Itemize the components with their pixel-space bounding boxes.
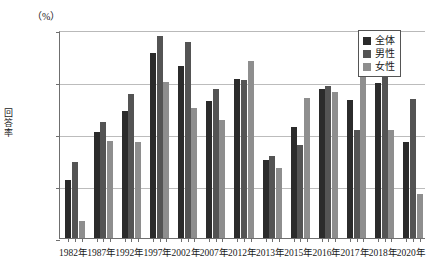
x-tick-mark [153,238,154,242]
x-tick-mark [335,238,336,242]
chart-container: （%） 回答率 65.060.055.050.045.0 1982年1987年1… [0,0,430,263]
bar-女性-2015年 [304,98,310,238]
legend-swatch-icon [363,63,371,71]
bar-女性-2017年 [360,54,366,238]
x-tick-mark [125,238,126,242]
bar-女性-2018年 [388,130,394,238]
legend-label: 女性 [375,61,395,72]
bar-group [291,32,310,238]
bar-男性-2007年 [213,89,219,238]
bar-男性-2018年 [382,65,388,238]
x-tick-label: 2007年 [200,245,228,259]
axis-unit-label: （%） [32,8,60,23]
x-tick-label: 2016年 [312,245,340,259]
x-tick-mark [272,238,273,242]
legend-label: 全体 [375,35,395,46]
bar-女性-1997年 [163,82,169,238]
legend-item-女性[interactable]: 女性 [363,60,395,73]
x-tick-mark [68,238,69,242]
x-tick-mark [166,238,167,242]
bar-男性-2017年 [354,130,360,238]
bar-group [94,32,113,238]
bar-女性-1982年 [79,221,85,238]
bar-男性-1982年 [72,162,78,238]
x-tick-mark [138,238,139,242]
bar-男性-2013年 [269,156,275,238]
x-tick-mark [209,238,210,242]
bar-group [263,32,282,238]
x-tick-label: 2018年 [369,245,397,259]
bar-全体-2018年 [375,83,381,238]
chart-legend: 全体男性女性 [358,30,401,77]
bar-group [319,32,338,238]
x-tick-mark [378,238,379,242]
y-axis-title: 回答率 [1,108,15,138]
bar-全体-1987年 [94,132,100,238]
bar-全体-1992年 [122,111,128,238]
legend-swatch-icon [363,50,371,58]
x-tick-label: 2012年 [228,245,256,259]
bar-全体-1982年 [65,180,71,238]
x-tick-mark [328,238,329,242]
x-tick-mark [300,238,301,242]
bar-全体-2013年 [263,160,269,238]
x-tick-mark [322,238,323,242]
x-tick-mark [279,238,280,242]
bar-group [122,32,141,238]
bar-女性-2016年 [332,92,338,238]
x-tick-label: 1987年 [87,245,115,259]
bar-男性-2020年 [410,99,416,238]
bar-女性-2002年 [191,108,197,238]
x-tick-label: 1982年 [59,245,87,259]
bar-女性-2012年 [248,61,254,238]
bar-全体-2002年 [178,66,184,238]
bar-全体-2012年 [234,79,240,238]
bar-group [178,32,197,238]
bar-group [234,32,253,238]
x-tick-label: 2020年 [397,245,425,259]
bar-女性-2020年 [417,194,423,238]
x-tick-label: 2015年 [284,245,312,259]
x-tick-mark [216,238,217,242]
bar-全体-2016年 [319,89,325,238]
x-tick-mark [75,238,76,242]
x-tick-label: 2013年 [256,245,284,259]
y-tick-mark [56,240,60,241]
x-tick-mark [391,238,392,242]
x-tick-mark [160,238,161,242]
x-tick-mark [110,238,111,242]
x-tick-label: 2002年 [172,245,200,259]
x-tick-mark [194,238,195,242]
bar-男性-1992年 [128,94,134,238]
legend-swatch-icon [363,37,371,45]
bar-女性-2013年 [276,168,282,238]
y-tick-mark [56,84,60,85]
x-tick-mark [363,238,364,242]
x-tick-mark [406,238,407,242]
x-tick-mark [222,238,223,242]
x-tick-label: 2017年 [341,245,369,259]
legend-item-男性[interactable]: 男性 [363,47,395,60]
x-tick-mark [103,238,104,242]
bar-全体-1997年 [150,53,156,238]
x-tick-mark [385,238,386,242]
x-tick-label: 1992年 [115,245,143,259]
y-tick-mark [56,188,60,189]
bar-女性-1992年 [135,142,141,238]
x-tick-mark [251,238,252,242]
x-tick-mark [97,238,98,242]
bar-男性-1987年 [100,122,106,238]
bar-男性-2002年 [185,42,191,238]
x-tick-mark [82,238,83,242]
x-tick-mark [266,238,267,242]
bar-全体-2007年 [206,101,212,238]
bar-group [65,32,84,238]
x-tick-mark [357,238,358,242]
x-tick-label: 1997年 [143,245,171,259]
x-tick-mark [420,238,421,242]
legend-item-全体[interactable]: 全体 [363,34,395,47]
bar-group [150,32,169,238]
bar-男性-2016年 [325,86,331,238]
y-tick-mark [56,32,60,33]
bar-group [206,32,225,238]
